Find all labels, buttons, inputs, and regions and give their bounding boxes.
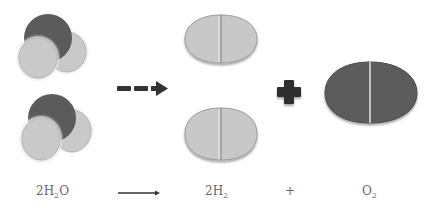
hydrogen-atom: [19, 38, 57, 78]
reaction-arrow-icon: [118, 191, 160, 196]
dashed-arrow-icon: [117, 81, 168, 96]
water-molecule-2: [20, 94, 93, 162]
plus-label: +: [285, 184, 295, 198]
oxygen-product-label: O2: [362, 184, 377, 200]
hydrogen-atom: [22, 118, 60, 160]
oxygen-molecule: [325, 62, 417, 123]
reactant-label: 2H2O: [36, 184, 69, 200]
hydrogen-molecule-1: [185, 15, 257, 63]
water-molecule-1: [17, 14, 88, 80]
reaction-diagram: [0, 0, 435, 210]
hydrogen-product-label: 2H2: [205, 184, 228, 200]
plus-icon: [277, 80, 301, 104]
hydrogen-molecule-2: [185, 108, 257, 160]
